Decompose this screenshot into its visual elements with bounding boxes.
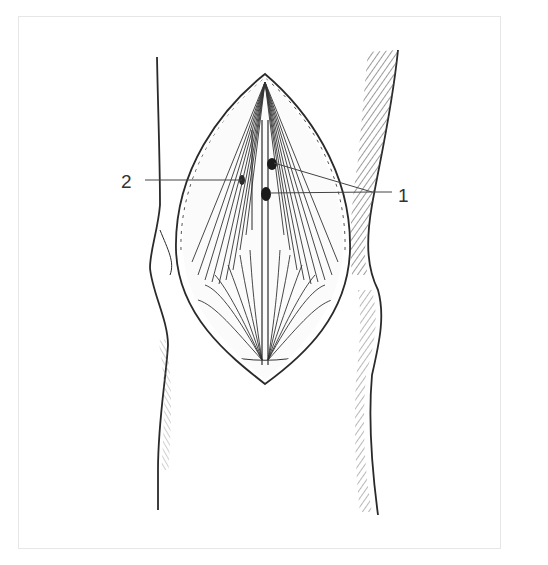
vessel-lower [261, 187, 271, 201]
left-leg-outline [150, 57, 172, 510]
thigh-incision-illustration [0, 0, 548, 565]
vessel-upper [267, 158, 277, 170]
incision [176, 74, 350, 384]
label-1: 1 [398, 186, 409, 205]
exposed-muscles [180, 78, 350, 383]
label-2: 2 [121, 172, 132, 191]
right-leg-outline [350, 50, 398, 515]
